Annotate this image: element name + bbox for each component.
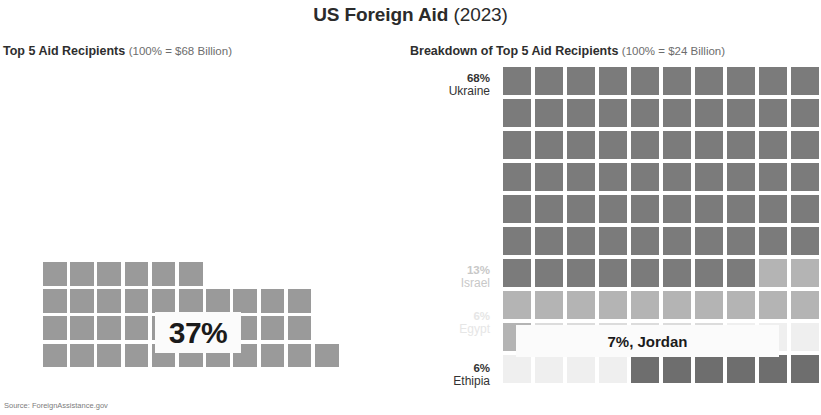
waffle-cell (727, 355, 755, 383)
waffle-cell (663, 163, 691, 191)
right-panel-callout: 7%, Jordan (516, 325, 779, 357)
waffle-cell (631, 355, 659, 383)
row-label-egypt-name: Egypt (400, 323, 490, 336)
waffle-cell (233, 289, 257, 313)
waffle-cell (70, 316, 94, 340)
waffle-cell (759, 99, 787, 127)
waffle-cell (663, 259, 691, 287)
page-title: US Foreign Aid (2023) (0, 4, 821, 26)
waffle-cell (727, 131, 755, 159)
right-panel-subtitle-main: Breakdown of Top 5 Aid Recipients (410, 44, 618, 58)
waffle-cell (535, 195, 563, 223)
waffle-cell (535, 355, 563, 383)
waffle-cell (97, 316, 121, 340)
waffle-cell (791, 355, 819, 383)
waffle-cell (567, 67, 595, 95)
waffle-cell (631, 99, 659, 127)
waffle-cell (759, 227, 787, 255)
waffle-cell (759, 67, 787, 95)
waffle-cell (663, 131, 691, 159)
waffle-cell (695, 195, 723, 223)
waffle-cell (727, 259, 755, 287)
waffle-cell (599, 131, 627, 159)
row-label-israel: 13% Israel (400, 264, 490, 290)
waffle-cell (152, 289, 176, 313)
waffle-cell (599, 67, 627, 95)
waffle-cell (791, 99, 819, 127)
waffle-cell (695, 227, 723, 255)
waffle-cell (567, 227, 595, 255)
row-label-ethiopia: 6% Ethipia (400, 362, 490, 388)
right-panel-subtitle: Breakdown of Top 5 Aid Recipients (100% … (410, 44, 725, 58)
waffle-cell (631, 291, 659, 319)
waffle-cell (759, 163, 787, 191)
waffle-cell (759, 355, 787, 383)
waffle-cell (631, 195, 659, 223)
waffle-cell (695, 163, 723, 191)
waffle-cell (791, 291, 819, 319)
waffle-cell (663, 355, 691, 383)
waffle-cell (567, 355, 595, 383)
infographic-root: US Foreign Aid (2023) Top 5 Aid Recipien… (0, 0, 821, 415)
waffle-cell (97, 262, 121, 286)
waffle-cell (567, 99, 595, 127)
page-title-year: (2023) (453, 4, 507, 25)
waffle-cell (179, 262, 203, 286)
waffle-cell (503, 67, 531, 95)
waffle-cell (535, 99, 563, 127)
waffle-cell (599, 99, 627, 127)
waffle-cell (599, 291, 627, 319)
waffle-cell (125, 316, 149, 340)
waffle-cell (288, 344, 312, 368)
right-panel-subtitle-note: (100% = $24 Billion) (622, 45, 725, 57)
waffle-cell (663, 227, 691, 255)
waffle-cell (261, 289, 285, 313)
waffle-cell (727, 163, 755, 191)
left-panel-callout: 37% (155, 312, 241, 353)
waffle-cell (315, 344, 339, 368)
waffle-cell (663, 67, 691, 95)
waffle-cell (791, 67, 819, 95)
waffle-cell (70, 289, 94, 313)
waffle-cell (599, 355, 627, 383)
waffle-cell (759, 195, 787, 223)
waffle-cell (631, 227, 659, 255)
waffle-cell (152, 262, 176, 286)
waffle-cell (727, 99, 755, 127)
waffle-cell (125, 344, 149, 368)
waffle-cell (663, 99, 691, 127)
source-note: Source: ForeignAssistance.gov (4, 401, 108, 410)
waffle-cell (599, 195, 627, 223)
waffle-cell (503, 99, 531, 127)
waffle-cell (631, 259, 659, 287)
waffle-cell (535, 131, 563, 159)
waffle-cell (567, 163, 595, 191)
waffle-cell (503, 259, 531, 287)
waffle-cell (759, 131, 787, 159)
waffle-cell (43, 316, 67, 340)
waffle-cell (179, 289, 203, 313)
waffle-cell (70, 344, 94, 368)
waffle-cell (288, 289, 312, 313)
waffle-cell (599, 259, 627, 287)
waffle-cell (535, 259, 563, 287)
waffle-cell (535, 227, 563, 255)
waffle-cell (567, 195, 595, 223)
waffle-cell (695, 355, 723, 383)
waffle-cell (791, 195, 819, 223)
waffle-cell (695, 131, 723, 159)
waffle-cell (663, 195, 691, 223)
waffle-cell (695, 291, 723, 319)
waffle-cell (599, 163, 627, 191)
row-label-ukraine-name: Ukraine (400, 85, 490, 98)
waffle-cell (631, 131, 659, 159)
waffle-cell (759, 291, 787, 319)
waffle-cell (791, 227, 819, 255)
row-label-egypt: 6% Egypt (400, 310, 490, 336)
waffle-cell (288, 316, 312, 340)
waffle-cell (631, 67, 659, 95)
waffle-cell (567, 259, 595, 287)
waffle-cell (535, 163, 563, 191)
waffle-cell (727, 67, 755, 95)
waffle-cell (727, 227, 755, 255)
